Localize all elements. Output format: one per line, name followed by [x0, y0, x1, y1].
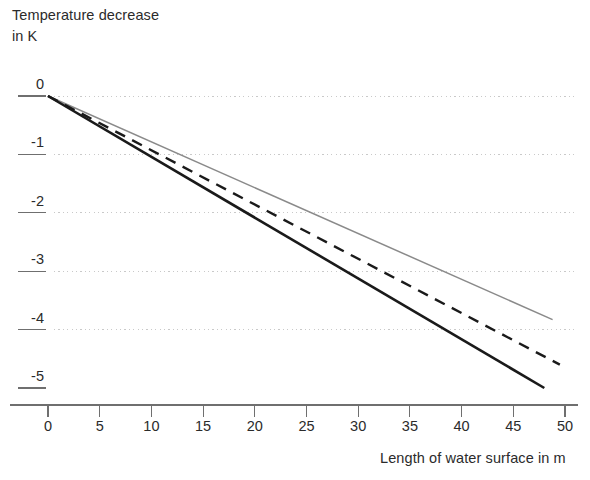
x-tick-label: 10	[136, 418, 166, 434]
x-axis-ticks	[48, 405, 565, 417]
x-axis-title: Length of water surface in m	[380, 450, 566, 466]
data-series	[48, 96, 560, 388]
y-tick-label: -4	[14, 310, 44, 326]
x-tick-label: 30	[343, 418, 373, 434]
gridlines	[54, 96, 578, 330]
x-tick-label: 45	[498, 418, 528, 434]
y-tick-label: -5	[14, 368, 44, 384]
y-tick-label: -2	[14, 193, 44, 209]
x-tick-label: 0	[33, 418, 63, 434]
x-tick-label: 25	[292, 418, 322, 434]
x-tick-label: 20	[240, 418, 270, 434]
series-line-steepest-decrease	[48, 96, 544, 388]
series-line-medium-decrease	[48, 96, 560, 365]
y-tick-label: -3	[14, 251, 44, 267]
y-tick-label: 0	[14, 76, 44, 92]
x-tick-label: 5	[85, 418, 115, 434]
x-tick-label: 15	[188, 418, 218, 434]
y-tick-label: -1	[14, 134, 44, 150]
x-tick-label: 40	[447, 418, 477, 434]
plot-area	[0, 0, 590, 480]
x-tick-label: 50	[550, 418, 580, 434]
x-tick-label: 35	[395, 418, 425, 434]
chart-container: Temperature decrease in K 0-1-2-3-4-5 05…	[0, 0, 590, 480]
series-line-shallowest-decrease	[48, 96, 553, 320]
